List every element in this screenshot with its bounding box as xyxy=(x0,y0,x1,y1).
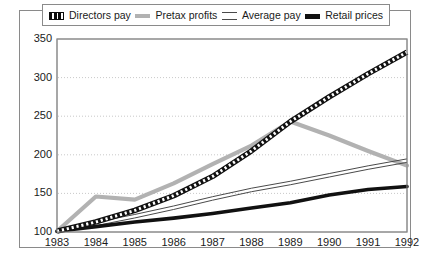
x-axis-tick-label: 1990 xyxy=(312,237,346,248)
y-axis-tick-label: 250 xyxy=(22,110,52,121)
legend-item-directors-pay[interactable]: Directors pay xyxy=(49,10,131,21)
x-axis-tick-label: 1987 xyxy=(196,237,230,248)
x-axis-tick-label: 1983 xyxy=(40,237,74,248)
retail-prices-line-icon xyxy=(305,14,320,19)
legend-item-average-pay[interactable]: Average pay xyxy=(222,10,301,21)
legend-item-retail-prices[interactable]: Retail prices xyxy=(305,10,383,21)
x-axis-tick-label: 1989 xyxy=(273,237,307,248)
y-axis-tick-label: 300 xyxy=(22,72,52,83)
average-pay-line-icon xyxy=(222,12,237,20)
legend-label-directors-pay: Directors pay xyxy=(69,10,131,21)
plot-area xyxy=(57,39,407,232)
chart-figure xyxy=(0,0,433,265)
legend-label-average-pay: Average pay xyxy=(242,10,301,21)
y-axis-tick-label: 350 xyxy=(22,33,52,44)
legend-label-pretax-profits: Pretax profits xyxy=(155,10,217,21)
x-axis-tick-label: 1992 xyxy=(390,237,424,248)
directors-pay-line-icon xyxy=(49,12,64,20)
x-axis-tick-label: 1991 xyxy=(351,237,385,248)
legend-item-pretax-profits[interactable]: Pretax profits xyxy=(135,10,217,21)
y-axis-tick-label: 200 xyxy=(22,149,52,160)
x-axis-tick-label: 1988 xyxy=(234,237,268,248)
pretax-profits-line-icon xyxy=(135,14,150,18)
x-axis-tick-label: 1985 xyxy=(118,237,152,248)
legend-label-retail-prices: Retail prices xyxy=(325,10,383,21)
chart-legend: Directors pay Pretax profits Average pay… xyxy=(42,4,390,26)
x-axis-tick-label: 1984 xyxy=(79,237,113,248)
x-axis-tick-label: 1986 xyxy=(157,237,191,248)
y-axis-tick-label: 150 xyxy=(22,187,52,198)
chart-canvas xyxy=(0,0,433,265)
